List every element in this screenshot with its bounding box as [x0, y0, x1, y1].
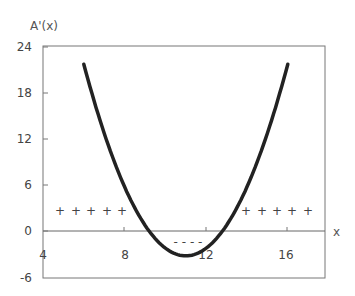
svg-text:+: + — [257, 204, 267, 218]
y-ticks — [43, 47, 48, 231]
y-tick-6: 6 — [24, 178, 32, 192]
svg-text:+: + — [102, 204, 112, 218]
svg-text:+: + — [241, 204, 251, 218]
svg-text:+: + — [86, 204, 96, 218]
derivative-curve — [84, 64, 288, 256]
x-tick-16: 16 — [278, 248, 293, 262]
svg-text:+: + — [55, 204, 65, 218]
x-tick-4: 4 — [39, 248, 47, 262]
y-tick-18: 18 — [17, 86, 32, 100]
minus-signs: - - - - — [174, 235, 203, 249]
svg-text:+: + — [287, 204, 297, 218]
y-tick-neg6: -6 — [20, 271, 32, 285]
svg-text:+: + — [71, 204, 81, 218]
x-tick-8: 8 — [121, 248, 129, 262]
x-axis-label: x — [333, 225, 340, 239]
svg-text:+: + — [117, 204, 127, 218]
chart: 24 18 12 6 0 -6 4 8 12 16 A'(x) x + + + … — [0, 0, 355, 296]
svg-text:+: + — [272, 204, 282, 218]
plus-signs: + + + + + + + + + + — [55, 204, 313, 218]
y-tick-0: 0 — [24, 224, 32, 238]
y-tick-12: 12 — [17, 132, 32, 146]
svg-text:+: + — [303, 204, 313, 218]
y-axis-label: A'(x) — [30, 19, 58, 33]
y-tick-24: 24 — [17, 40, 32, 54]
